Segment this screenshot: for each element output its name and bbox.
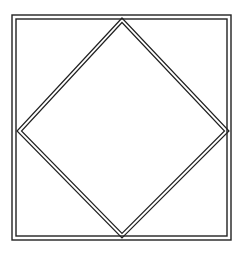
diamond-outer-line [17, 18, 229, 238]
outer-square-outer-line [12, 15, 231, 240]
inner-diamond [17, 18, 229, 238]
square-diamond-diagram [0, 0, 245, 254]
outer-square-frame [12, 15, 231, 240]
diamond-inner-line [22, 23, 225, 234]
outer-square-inner-line [16, 19, 227, 236]
